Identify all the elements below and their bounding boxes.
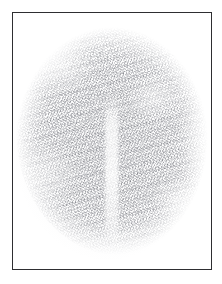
scribble-mass (16, 27, 208, 255)
plate-interior (13, 13, 211, 269)
image-canvas (0, 0, 222, 284)
frame-border (12, 12, 212, 270)
scribble-layer-stipple (16, 27, 208, 255)
